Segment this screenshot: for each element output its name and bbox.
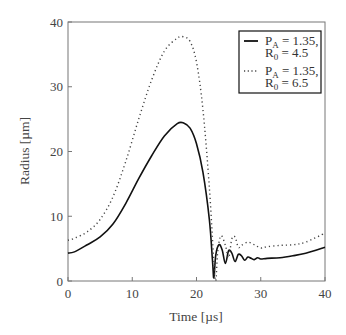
x-tick-label: 10 (126, 286, 139, 301)
legend-entry-line2: R0 = 6.5 (265, 75, 308, 92)
y-tick-label: 30 (50, 79, 63, 94)
y-tick-label: 10 (50, 209, 63, 224)
x-tick-label: 0 (65, 286, 72, 301)
series-line-r0-4-5 (68, 122, 325, 278)
x-tick-label: 30 (254, 286, 267, 301)
legend: PA = 1.35,R0 = 4.5PA = 1.35,R0 = 6.5 (239, 31, 321, 93)
y-tick-label: 0 (57, 274, 64, 289)
legend-entry-line2: R0 = 4.5 (265, 45, 308, 62)
radius-time-chart: 010203040010203040 PA = 1.35,R0 = 4.5PA … (0, 0, 346, 335)
y-axis-label: Radius [µm] (17, 117, 32, 185)
y-tick-label: 40 (50, 15, 63, 30)
x-tick-label: 20 (190, 286, 203, 301)
x-tick-label: 40 (319, 286, 332, 301)
y-tick-label: 20 (50, 144, 63, 159)
x-axis-label: Time [µs] (169, 309, 222, 324)
